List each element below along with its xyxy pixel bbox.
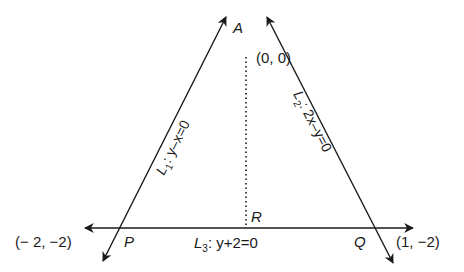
coord-p: (− 2, −2) — [15, 233, 72, 250]
label-l1: L1: y–x=0 — [152, 117, 195, 178]
triangle-diagram: A (0, 0) R P (− 2, −2) Q (1, −2) L1: y–x… — [0, 0, 464, 272]
label-l3-name: L — [194, 234, 202, 251]
coord-a: (0, 0) — [256, 49, 291, 66]
label-l2: L2: 2x–y=0 — [288, 88, 336, 156]
label-l2-eq: : 2x–y=0 — [297, 100, 336, 155]
label-p: P — [124, 233, 134, 250]
line-l1 — [103, 17, 226, 261]
coord-q: (1, −2) — [396, 233, 440, 250]
label-r: R — [251, 208, 262, 225]
label-a: A — [232, 19, 243, 36]
label-l3-eq: : y+2=0 — [208, 234, 258, 251]
label-q: Q — [354, 233, 366, 250]
label-l3: L3: y+2=0 — [194, 234, 258, 254]
